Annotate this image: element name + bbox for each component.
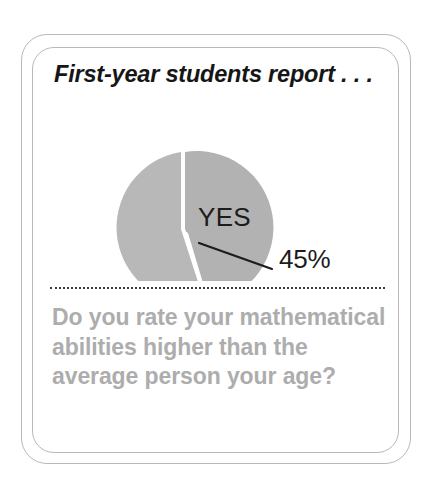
pie-chart-svg xyxy=(32,91,399,281)
page-title: First-year students report . . . xyxy=(54,61,373,88)
infographic-card: First-year students report . . . YES 45%… xyxy=(32,47,399,453)
pie-slice-label-yes: YES xyxy=(198,202,251,233)
survey-question-text: Do you rate your mathematical abilities … xyxy=(52,303,392,392)
pie-chart: YES 45% xyxy=(32,91,399,281)
pie-slice-value-yes: 45% xyxy=(279,244,330,275)
dotted-divider xyxy=(50,287,385,292)
